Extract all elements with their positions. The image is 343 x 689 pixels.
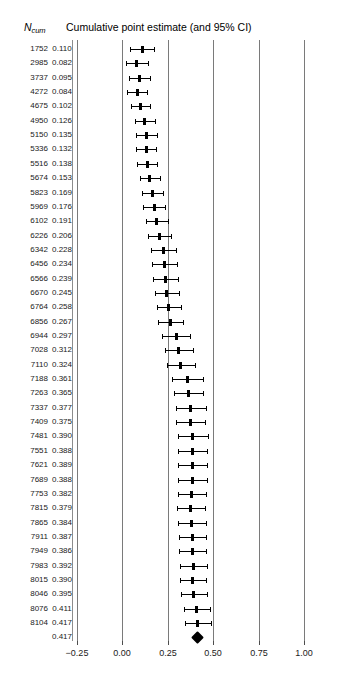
study-marker [146, 161, 149, 168]
ci-cap [154, 47, 155, 52]
ci-cap [172, 377, 173, 382]
summary-diamond [192, 631, 205, 644]
ci-cap [143, 205, 144, 210]
ci-cap [179, 291, 180, 296]
ci-cap [179, 549, 180, 554]
axis-tick-label: 0.00 [100, 648, 144, 658]
ci-cap [150, 104, 151, 109]
ci-cap [126, 61, 127, 66]
study-marker [189, 505, 192, 512]
study-marker [145, 132, 148, 139]
ci-cap [148, 61, 149, 66]
ci-cap [176, 248, 177, 253]
ci-cap [206, 578, 207, 583]
axis-tick-label: 0.50 [191, 648, 235, 658]
study-marker [167, 304, 170, 311]
study-marker [155, 218, 158, 225]
ci-cap [135, 119, 136, 124]
study-marker [191, 433, 194, 440]
ci-cap [207, 592, 208, 597]
ci-cap [178, 478, 179, 483]
ci-cap [136, 133, 137, 138]
ci-cap [171, 234, 172, 239]
ci-cap [157, 162, 158, 167]
study-marker [162, 247, 165, 254]
study-marker [139, 103, 142, 110]
ci-cap [160, 176, 161, 181]
ci-cap [136, 147, 137, 152]
ci-cap [180, 578, 181, 583]
study-marker [163, 261, 166, 268]
study-marker [192, 591, 195, 598]
study-marker [189, 419, 192, 426]
gridline-0.75 [259, 40, 260, 641]
study-marker [191, 534, 194, 541]
study-marker [196, 620, 199, 627]
ci-cap [168, 219, 169, 224]
study-marker [165, 290, 168, 297]
ci-cap [206, 535, 207, 540]
ci-cap [150, 76, 151, 81]
ci-cap [185, 621, 186, 626]
study-marker [191, 477, 194, 484]
ci-cap [178, 521, 179, 526]
ci-cap [162, 334, 163, 339]
axis-tick [304, 641, 305, 645]
study-marker [164, 276, 167, 283]
ci-cap [155, 291, 156, 296]
ci-cap [167, 363, 168, 368]
ci-cap [206, 521, 207, 526]
ci-cap [203, 391, 204, 396]
ci-cap [131, 104, 132, 109]
ci-cap [158, 320, 159, 325]
ci-cap [155, 119, 156, 124]
gridline-0.00 [122, 40, 123, 641]
ci-cap [156, 147, 157, 152]
gridline-0.25 [168, 40, 169, 641]
study-marker [191, 462, 194, 469]
axis-tick-label: −0.25 [55, 648, 99, 658]
study-marker [169, 319, 172, 326]
study-marker [191, 448, 194, 455]
ci-cap [206, 406, 207, 411]
study-marker [190, 520, 193, 527]
ci-cap [148, 234, 149, 239]
ci-cap [211, 621, 212, 626]
ci-cap [163, 191, 164, 196]
study-marker [191, 577, 194, 584]
ci-cap [195, 363, 196, 368]
study-marker [175, 333, 178, 340]
axis-tick-label: 1.00 [282, 648, 326, 658]
ci-cap [174, 391, 175, 396]
ci-cap [207, 463, 208, 468]
axis-tick [168, 641, 169, 645]
ci-cap [147, 90, 148, 95]
study-marker [151, 190, 154, 197]
ci-cap [184, 607, 185, 612]
ci-cap [129, 76, 130, 81]
ci-cap [190, 334, 191, 339]
ci-cap [178, 434, 179, 439]
ci-cap [203, 377, 204, 382]
study-marker [191, 548, 194, 555]
study-marker [138, 75, 141, 82]
ci-cap [177, 506, 178, 511]
gridline-1.00 [304, 40, 305, 641]
ci-cap [180, 564, 181, 569]
gridline-0.50 [213, 40, 214, 641]
ci-cap [142, 191, 143, 196]
ci-cap [210, 607, 211, 612]
study-marker [189, 405, 192, 412]
axis-tick [259, 641, 260, 645]
study-marker [141, 46, 144, 53]
axis-tick-label: 0.25 [146, 648, 190, 658]
ci-cap [181, 305, 182, 310]
ci-cap [127, 90, 128, 95]
ci-cap [207, 564, 208, 569]
ci-cap [205, 420, 206, 425]
ci-cap [140, 176, 141, 181]
study-marker [187, 390, 190, 397]
ci-cap [207, 478, 208, 483]
plot-area: −0.250.000.250.500.751.00 [0, 0, 343, 689]
ci-cap [178, 277, 179, 282]
